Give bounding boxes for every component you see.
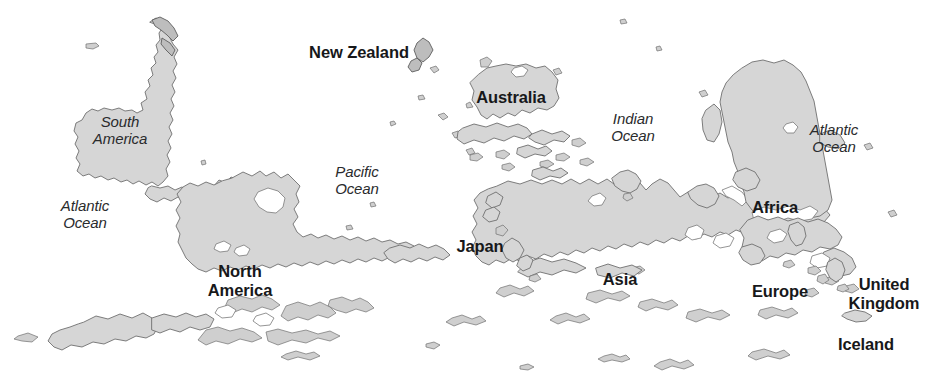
map-canvas [0, 0, 935, 385]
map-label-new-zealand: New Zealand [309, 43, 409, 62]
map-label-pacific-ocean: Pacific Ocean [335, 163, 379, 197]
map-label-europe: Europe [752, 282, 808, 301]
map-label-indian-ocean: Indian Ocean [611, 110, 655, 144]
map-label-united-kingdom: United Kingdom [849, 275, 920, 313]
map-label-africa: Africa [752, 198, 798, 217]
landmass-indonesia-archipelago [457, 123, 594, 180]
landmass-south-america [74, 17, 206, 186]
map-label-south-america: South America [93, 113, 147, 147]
world-map-figure: South America New Zealand Australia Indi… [0, 0, 935, 385]
map-label-atlantic-ocean-east: Atlantic Ocean [810, 121, 858, 155]
map-label-asia: Asia [603, 270, 637, 289]
landmass-greenland-arctic [48, 295, 340, 350]
map-label-japan: Japan [456, 237, 503, 256]
map-label-iceland: Iceland [838, 335, 894, 354]
landmass-new-zealand [408, 38, 439, 73]
map-label-australia: Australia [476, 88, 546, 107]
map-label-atlantic-ocean-west: Atlantic Ocean [61, 197, 109, 231]
map-label-north-america: North America [208, 262, 272, 300]
